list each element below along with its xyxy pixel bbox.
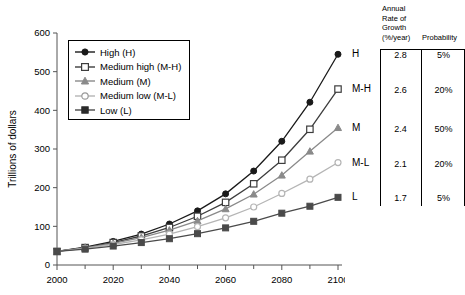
legend-item-medium: Medium (M) [74,74,184,89]
series-M-L [54,160,341,255]
legend-item-low: Low (L) [74,103,184,118]
table-header: Annual Rate of Growth (%/year) Probabili… [380,4,465,48]
filled-circle-marker-icon [74,46,96,58]
table-row: 50% [422,124,465,134]
series-key-L: L [352,191,358,202]
x-axis-tick-label: 2020 [103,274,124,285]
x-axis-tick-label: 2000 [46,274,67,285]
filled-triangle-marker-icon [74,75,96,87]
y-axis-tick-label: 0 [45,259,50,270]
series-key-M-H: M-H [352,83,371,94]
filled-square-marker-icon [74,104,96,116]
table-row: 5% [422,193,465,203]
series-key-M: M [352,122,360,133]
table-row: 5% [422,50,465,60]
legend-item-medium-high: Medium high (M-H) [74,60,184,75]
growth-probability-table: Annual Rate of Growth (%/year) Probabili… [380,4,465,206]
legend-label-medium-low: Medium low (M-L) [100,91,176,101]
y-axis-tick-label: 100 [34,221,50,232]
legend-item-medium-low: Medium low (M-L) [74,89,184,104]
series-key-M-L: M-L [352,157,369,168]
table-row: 20% [422,159,465,169]
open-square-marker-icon [74,61,96,73]
legend-label-high: High (H) [100,48,135,58]
legend-label-medium-high: Medium high (M-H) [100,62,181,72]
header-line-4: (%/year) [382,33,422,43]
x-axis-tick-label: 2040 [159,274,180,285]
table-row: 20% [422,85,465,95]
y-axis-tick-label: 400 [34,105,50,116]
y-axis-tick-label: 200 [34,182,50,193]
header-line-1: Annual [382,4,422,14]
legend-label-medium: Medium (M) [100,77,151,87]
table-header-probability: Probability [422,33,457,43]
chart-legend: High (H) Medium high (M-H) Medium (M) [68,40,190,120]
table-row: 2.4 [380,124,421,134]
legend-label-low: Low (L) [100,106,132,116]
x-axis-tick-label: 2060 [215,274,236,285]
x-axis-tick-label: 2080 [271,274,292,285]
table-row: 1.7 [380,193,421,203]
table-header-rate-of-growth: Annual Rate of Growth (%/year) [382,4,422,42]
series-key-H: H [352,48,359,59]
header-line-2: Rate of [382,14,422,24]
table-row: 2.8 [380,50,421,60]
open-circle-marker-icon [74,90,96,102]
table-row: 2.1 [380,159,421,169]
y-axis-tick-label: 600 [34,27,50,38]
y-axis-tick-label: 500 [34,66,50,77]
x-axis-tick-label: 2100 [327,274,345,285]
y-axis-tick-label: 300 [34,143,50,154]
table-row: 2.6 [380,85,421,95]
y-axis-title: Trillions of dollars [7,110,18,187]
header-line-3: Growth [382,23,422,33]
legend-item-high: High (H) [74,45,184,60]
chart-figure: 0100200300400500600200020202040206020802… [0,0,465,295]
